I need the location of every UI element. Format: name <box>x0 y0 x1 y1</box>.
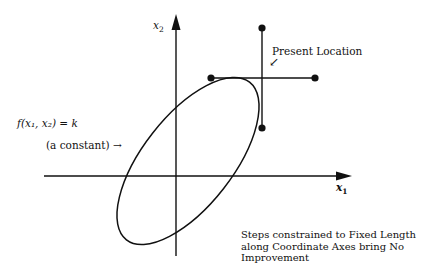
x1-label-subscript: 1 <box>342 187 347 196</box>
step-down-point <box>258 124 265 131</box>
diagram-caption: Steps constrained to Fixed Length along … <box>241 229 426 264</box>
x1-axis-arrowhead <box>336 172 352 181</box>
x1-axis-label: x1 <box>336 181 347 198</box>
x1-axis <box>44 172 352 181</box>
step-left-point <box>207 74 214 81</box>
contour-equation-label: f(x₁, x₂) = k <box>17 117 78 129</box>
x2-axis <box>172 14 181 256</box>
step-right-point <box>311 74 318 81</box>
x2-label-subscript: 2 <box>159 25 164 34</box>
x2-axis-arrowhead <box>172 14 181 30</box>
x2-axis-label: x2 <box>153 19 164 36</box>
contour-constant-note: (a constant) → <box>46 139 122 151</box>
step-up-point <box>258 24 265 31</box>
present-location-label: Present Location <box>272 45 362 57</box>
coordinate-steps <box>211 28 315 128</box>
present-location-arrow-icon: ↙ <box>269 56 279 68</box>
